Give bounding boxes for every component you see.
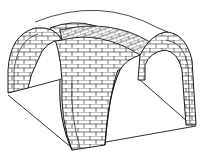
groin-vault-illustration — [0, 0, 202, 163]
vault-drawing — [0, 0, 202, 163]
right-arch — [138, 32, 196, 125]
